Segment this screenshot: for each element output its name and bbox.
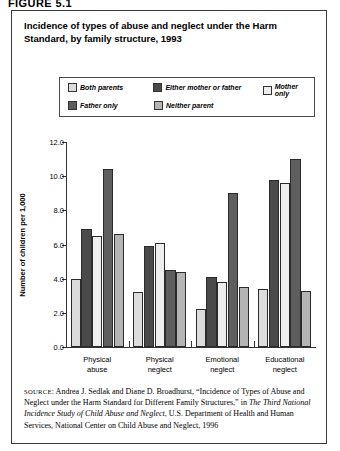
chart-legend: Both parents Either mother or father Mot…	[59, 77, 315, 117]
legend-label-both-parents: Both parents	[80, 84, 123, 91]
legend-item-mother-only: Mother only	[263, 83, 314, 97]
x-axis-label-line: Physical	[66, 355, 129, 365]
x-axis-label: Educationalneglect	[254, 355, 317, 375]
bar	[301, 291, 311, 347]
x-axis-label: Physicalabuse	[66, 355, 129, 375]
y-tick-label: 10.0	[38, 172, 64, 181]
bar	[290, 159, 300, 347]
bar	[269, 180, 279, 347]
y-tick-label: 8.0	[38, 206, 64, 215]
y-axis-title: Number of children per 1,000	[18, 193, 27, 296]
legend-swatch-both-parents	[68, 83, 77, 92]
legend-swatch-father-only	[68, 101, 77, 110]
legend-label-father-only: Father only	[80, 102, 118, 109]
source-prefix: SOURCE	[24, 388, 52, 395]
x-axis-label-line: neglect	[191, 365, 254, 375]
x-axis-label-line: neglect	[129, 365, 192, 375]
bar-group	[66, 142, 316, 347]
x-axis-label-line: Educational	[254, 355, 317, 365]
legend-swatch-mother-only	[263, 86, 272, 95]
legend-item-neither-parent: Neither parent	[154, 101, 213, 110]
legend-swatch-neither-parent	[154, 101, 163, 110]
x-axis-label-line: Emotional	[191, 355, 254, 365]
y-tick-label: 4.0	[38, 275, 64, 284]
legend-item-both-parents: Both parents	[68, 83, 153, 92]
legend-row-2: Father only Neither parent	[68, 101, 314, 114]
bar	[258, 289, 268, 347]
x-axis-line	[66, 347, 316, 348]
x-axis-label-line: neglect	[254, 365, 317, 375]
bar-chart-plot-area: Number of children per 1,000 0.02.04.06.…	[66, 142, 316, 347]
legend-item-either-mother-or-father: Either mother or father	[153, 83, 262, 92]
figure-frame: Incidence of types of abuse and neglect …	[11, 10, 327, 444]
y-tick-label: 0.0	[38, 343, 64, 352]
legend-label-mother-only: Mother only	[275, 83, 314, 97]
legend-item-father-only: Father only	[68, 101, 154, 110]
legend-row-1: Both parents Either mother or father Mot…	[68, 83, 314, 96]
y-tick-label: 2.0	[38, 309, 64, 318]
legend-label-either-mother-or-father: Either mother or father	[165, 84, 241, 91]
y-tick-label: 12.0	[38, 138, 64, 147]
figure-label: FIGURE 5.1	[8, 0, 72, 9]
x-axis-label: Emotionalneglect	[191, 355, 254, 375]
legend-label-neither-parent: Neither parent	[166, 102, 213, 109]
legend-swatch-either-mother-or-father	[153, 83, 162, 92]
page-title: Incidence of types of abuse and neglect …	[24, 19, 314, 45]
source-note: SOURCE: Andrea J. Sedlak and Diane D. Br…	[24, 386, 316, 431]
x-axis-label-line: abuse	[66, 365, 129, 375]
bar	[280, 183, 290, 347]
x-axis-label-line: Physical	[129, 355, 192, 365]
y-tick-label: 6.0	[38, 241, 64, 250]
x-axis-label: Physicalneglect	[129, 355, 192, 375]
